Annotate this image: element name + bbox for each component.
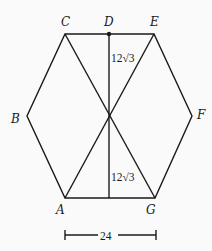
upper-height-label: 12√3 <box>111 52 135 64</box>
vertex-label-g: G <box>146 203 156 217</box>
point-d-marker <box>107 32 111 36</box>
hexagon-diagram: C D E B F A G 12√3 12√3 24 <box>0 0 212 251</box>
vertex-label-e: E <box>149 15 159 29</box>
base-width-label: 24 <box>100 230 112 242</box>
vertex-label-a: A <box>55 203 65 217</box>
vertex-label-d: D <box>103 15 114 29</box>
vertex-label-f: F <box>196 108 206 122</box>
vertex-label-c: C <box>61 15 70 29</box>
vertex-label-b: B <box>10 112 20 126</box>
lower-height-label: 12√3 <box>111 171 135 183</box>
